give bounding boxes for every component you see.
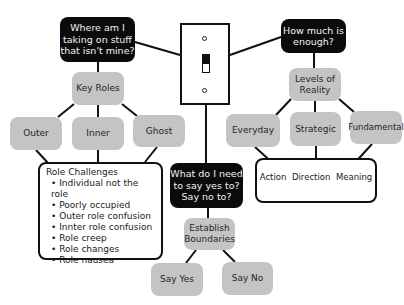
outer-node: Outer <box>10 117 62 150</box>
role-challenges-list: Individual not the role Poorly occupied … <box>46 178 155 266</box>
key-roles-node: Key Roles <box>72 72 124 105</box>
list-item: Individual not the role <box>51 178 155 200</box>
list-item: Role nausea <box>51 255 155 266</box>
levels-of-reality-node: Levels of Reality <box>289 68 341 101</box>
direction-label: Direction <box>292 172 330 183</box>
question-left: Where am I taking on stuff that isn't mi… <box>60 17 135 62</box>
everyday-label: Everyday <box>232 125 274 136</box>
list-item: Role creep <box>51 233 155 244</box>
question-center-text: What do I need to say yes to? Say no to? <box>170 168 243 203</box>
action-label: Action <box>260 172 287 183</box>
establish-boundaries-label: Establish Boundaries <box>184 223 235 245</box>
ghost-node: Ghost <box>133 115 185 147</box>
question-center: What do I need to say yes to? Say no to? <box>170 163 243 208</box>
inner-node: Inner <box>72 117 124 150</box>
say-no-node: Say No <box>222 262 273 295</box>
outer-label: Outer <box>23 128 49 139</box>
outcomes-box: Action Direction Meaning <box>255 158 377 203</box>
light-switch-icon <box>180 23 230 105</box>
strategic-node: Strategic <box>290 112 341 146</box>
screw-icon <box>202 88 207 93</box>
say-yes-node: Say Yes <box>151 263 203 296</box>
say-yes-label: Say Yes <box>160 274 194 285</box>
key-roles-label: Key Roles <box>76 83 119 94</box>
say-no-label: Say No <box>232 273 264 284</box>
question-right: How much is enough? <box>281 19 346 53</box>
question-right-text: How much is enough? <box>281 25 346 48</box>
list-item: Poorly occupied <box>51 200 155 211</box>
role-challenges-title: Role Challenges <box>46 167 155 178</box>
meaning-label: Meaning <box>336 172 372 183</box>
strategic-label: Strategic <box>295 124 336 135</box>
question-left-text: Where am I taking on stuff that isn't mi… <box>60 22 135 57</box>
fundamental-node: Fundamental <box>350 111 402 144</box>
list-item: Role changes <box>51 244 155 255</box>
establish-boundaries-node: Establish Boundaries <box>184 218 235 250</box>
levels-of-reality-label: Levels of Reality <box>289 74 341 96</box>
screw-icon <box>202 36 207 41</box>
fundamental-label: Fundamental <box>348 122 404 133</box>
inner-label: Inner <box>86 128 109 139</box>
everyday-node: Everyday <box>226 114 280 147</box>
ghost-label: Ghost <box>146 126 172 137</box>
list-item: Outer role confusion <box>51 211 155 222</box>
role-challenges-box: Role Challenges Individual not the role … <box>38 162 163 260</box>
toggle-icon <box>202 54 210 73</box>
list-item: Innter role confusion <box>51 222 155 233</box>
